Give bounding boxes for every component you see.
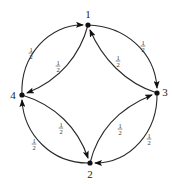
node-4-dot — [19, 92, 24, 97]
node-3-label: 3 — [162, 86, 168, 98]
edge-2-to-4 — [22, 100, 90, 163]
node-4-label: 4 — [10, 89, 16, 101]
svg-text:1: 1 — [118, 122, 121, 129]
svg-text:1: 1 — [29, 46, 32, 53]
svg-text:1: 1 — [147, 132, 150, 139]
node-1-dot — [85, 22, 90, 27]
svg-text:1: 1 — [32, 137, 35, 144]
weight-label-2-to-4: 1 2 — [32, 137, 37, 151]
edge-1-to-3 — [88, 25, 157, 88]
svg-text:2: 2 — [29, 53, 32, 60]
svg-text:1: 1 — [116, 54, 119, 61]
svg-text:1: 1 — [56, 59, 59, 66]
node-2-dot — [87, 160, 92, 165]
edge-3-to-1 — [90, 30, 157, 93]
weight-label-3-to-2: 1 2 — [147, 132, 152, 146]
node-2-label: 2 — [87, 168, 93, 180]
svg-text:2: 2 — [59, 128, 62, 135]
weight-label-2-to-3: 1 2 — [118, 122, 123, 136]
node-3-dot — [154, 90, 159, 95]
svg-text:2: 2 — [147, 139, 150, 146]
edge-3-to-2 — [95, 93, 157, 163]
weight-label-1-to-3: 1 2 — [141, 39, 146, 53]
svg-text:1: 1 — [59, 121, 62, 128]
svg-text:2: 2 — [116, 61, 119, 68]
weight-label-4-to-1: 1 2 — [29, 46, 34, 60]
weight-label-3-to-1: 1 2 — [116, 54, 121, 68]
svg-text:2: 2 — [118, 129, 121, 136]
svg-text:2: 2 — [56, 66, 59, 73]
weight-label-4-to-2: 1 2 — [59, 121, 64, 135]
weight-label-1-to-4: 1 2 — [56, 59, 61, 73]
markov-chain-diagram: 1 2 3 4 1 2 1 2 1 2 1 2 1 2 1 2 1 2 1 2 — [0, 0, 172, 184]
svg-text:1: 1 — [141, 39, 144, 46]
edge-4-to-1 — [22, 25, 83, 95]
node-1-label: 1 — [85, 8, 91, 20]
svg-text:2: 2 — [141, 46, 144, 53]
svg-text:2: 2 — [32, 144, 35, 151]
